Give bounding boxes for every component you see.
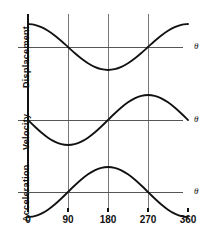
- theta-label-velocity: θ: [194, 114, 198, 124]
- x-tick-label: 0: [13, 214, 43, 225]
- theta-label-displacement: θ: [194, 41, 198, 51]
- y-axis-title-velocity: Velocity: [21, 114, 31, 150]
- x-tick-label: 180: [93, 214, 123, 225]
- x-tick-label: 360: [173, 214, 203, 225]
- theta-label-acceleration: θ: [194, 186, 198, 196]
- gridlines: [68, 14, 148, 208]
- plot-canvas: [0, 0, 213, 231]
- tick-marks: [28, 208, 188, 212]
- x-tick-label: 270: [133, 214, 163, 225]
- y-axis-title-displacement: Displacement: [21, 26, 31, 88]
- sinusoid-motion-figure: Displacement Velocity Acceleration θ θ θ…: [0, 0, 213, 231]
- axes: [18, 14, 183, 208]
- x-tick-label: 90: [53, 214, 83, 225]
